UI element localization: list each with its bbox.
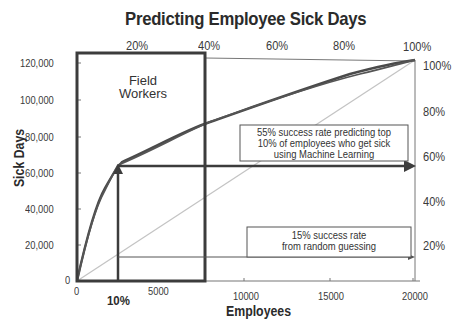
x-tick-label: 0 xyxy=(74,285,79,297)
x-axis-label: Employees xyxy=(226,303,291,319)
y-tick-label: 60,000 xyxy=(25,167,54,179)
random-note-text: 15% success rate from random guessing xyxy=(255,230,403,252)
y-tick-label: 40,000 xyxy=(25,203,54,215)
top-axis xyxy=(205,58,415,61)
right-pct-label: 80% xyxy=(423,104,445,119)
ten-percent-label: 10% xyxy=(107,293,130,308)
right-pct-label: 20% xyxy=(423,238,445,253)
ml-arrow-head-icon xyxy=(404,160,416,172)
top-pct-label: 80% xyxy=(333,38,355,53)
top-pct-label: 100% xyxy=(403,39,431,54)
top-pct-label: 20% xyxy=(126,38,148,53)
right-pct-label: 100% xyxy=(423,58,451,73)
x-tick-label: 20000 xyxy=(402,290,428,302)
y-tick-label: 80,000 xyxy=(25,131,54,143)
right-pct-label: 40% xyxy=(423,194,445,209)
ml-note-line: using Machine Learning xyxy=(248,149,399,160)
y-tick-label: 100,000 xyxy=(20,94,54,106)
y-axis-label: Sick Days xyxy=(11,129,27,187)
field-workers-label: Field Workers xyxy=(113,74,173,100)
ml-note-text: 55% success rate predicting top 10% of e… xyxy=(248,127,399,160)
field-workers-line2: Workers xyxy=(113,87,173,100)
x-tick-label: 10000 xyxy=(233,290,259,302)
plot-area xyxy=(0,0,469,333)
top-pct-label: 60% xyxy=(266,38,288,53)
y-tick-label: 120,000 xyxy=(20,57,54,69)
x-tick-label: 15000 xyxy=(318,290,344,302)
y-tick-label: 20,000 xyxy=(25,239,54,251)
random-note-line: from random guessing xyxy=(255,241,403,252)
x-tick-label: 5000 xyxy=(148,285,169,297)
y-tick-label: 0 xyxy=(65,274,70,286)
right-pct-label: 60% xyxy=(423,149,445,164)
top-pct-label: 40% xyxy=(198,38,220,53)
